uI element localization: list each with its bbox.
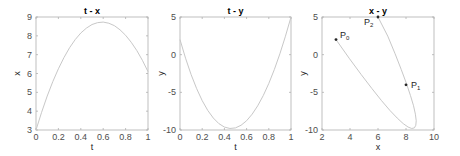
axes-t-y: 00.20.40.60.81-10-505t - yty xyxy=(156,6,294,152)
x-tick-label: 0.6 xyxy=(240,132,253,142)
y-tick-label: 3 xyxy=(27,125,32,135)
plot-area xyxy=(36,17,148,130)
x-tick-label: 0.8 xyxy=(263,132,276,142)
y-tick-label: 5 xyxy=(313,12,318,22)
chart-title: x - y xyxy=(369,6,387,16)
x-tick-label: 6 xyxy=(375,132,380,142)
point-marker xyxy=(335,38,338,41)
plot-area xyxy=(180,17,291,130)
y-tick-label: -10 xyxy=(305,125,318,135)
x-tick-label: 0.4 xyxy=(218,132,231,142)
y-tick-label: 6 xyxy=(27,69,32,79)
x-axis-label: x xyxy=(376,142,381,152)
y-tick-label: 4 xyxy=(27,106,32,116)
axes-t-x: 00.20.40.60.813456789t - xtx xyxy=(12,6,151,152)
x-tick-label: 1 xyxy=(288,132,293,142)
y-tick-label: 8 xyxy=(27,31,32,41)
x-tick-label: 0.2 xyxy=(196,132,209,142)
y-tick-label: 0 xyxy=(171,50,176,60)
chart-title: t - y xyxy=(227,6,243,16)
y-tick-label: -5 xyxy=(310,87,318,97)
x-tick-label: 2 xyxy=(319,132,324,142)
y-tick-label: 7 xyxy=(27,50,32,60)
point-marker xyxy=(377,16,380,19)
x-axis-label: t xyxy=(234,142,237,152)
y-axis-label: x xyxy=(12,71,22,76)
x-tick-label: 10 xyxy=(429,132,439,142)
x-tick-label: 0 xyxy=(177,132,182,142)
x-tick-label: 0.2 xyxy=(52,132,65,142)
x-tick-label: 8 xyxy=(403,132,408,142)
y-tick-label: 5 xyxy=(171,12,176,22)
x-tick-label: 0.4 xyxy=(75,132,88,142)
y-axis-label: y xyxy=(298,71,308,76)
axes-x-y: 246810-10-505P0P1P2x - yxy xyxy=(298,6,439,152)
plot-area xyxy=(322,17,434,130)
y-tick-label: 9 xyxy=(27,12,32,22)
chart-title: t - x xyxy=(84,6,100,16)
x-tick-label: 0 xyxy=(33,132,38,142)
y-tick-label: 5 xyxy=(27,87,32,97)
point-marker xyxy=(405,83,408,86)
x-tick-label: 1 xyxy=(145,132,150,142)
x-tick-label: 0.8 xyxy=(119,132,132,142)
x-tick-label: 4 xyxy=(347,132,352,142)
x-tick-label: 0.6 xyxy=(97,132,110,142)
y-tick-label: -5 xyxy=(168,87,176,97)
x-axis-label: t xyxy=(91,142,94,152)
y-tick-label: -10 xyxy=(163,125,176,135)
y-tick-label: 0 xyxy=(313,50,318,60)
figure: 00.20.40.60.813456789t - xtx 00.20.40.60… xyxy=(0,0,460,156)
y-axis-label: y xyxy=(156,71,166,76)
